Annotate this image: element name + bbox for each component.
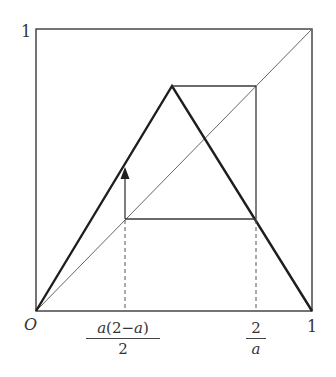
paren-close: )	[143, 319, 149, 337]
diagram-canvas	[0, 0, 336, 377]
fraction-denominator: 2	[118, 340, 128, 358]
fraction-bar	[246, 338, 266, 339]
origin-label: O	[24, 317, 37, 333]
x-axis-one-label: 1	[307, 319, 317, 335]
diagonal-line	[36, 29, 312, 311]
fraction-bar	[86, 338, 160, 339]
tent-map-curve	[36, 86, 312, 311]
tick-label-2-over-a: 2 a	[246, 319, 266, 358]
cobweb-diagram: 1 O 1 a(2−a) 2 2 a	[0, 0, 336, 377]
var-a: a	[134, 319, 143, 337]
fraction-numerator: 2	[251, 319, 261, 337]
var-a: a	[97, 319, 106, 337]
y-axis-one-label: 1	[21, 24, 31, 40]
fraction-denominator: a	[252, 340, 261, 358]
fraction-numerator: a(2−a)	[97, 319, 149, 337]
paren-open: (2−	[106, 319, 134, 337]
tick-label-a-2-minus-a-over-2: a(2−a) 2	[86, 319, 160, 358]
